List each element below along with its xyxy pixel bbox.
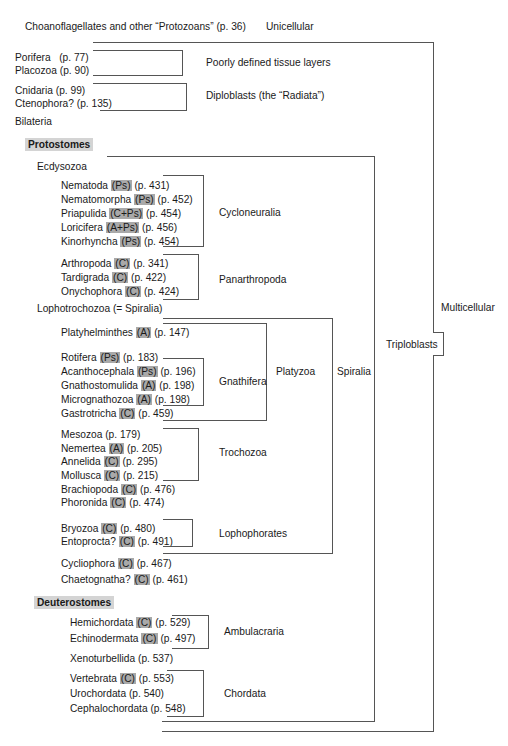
lophophorates-bracket-side bbox=[192, 519, 193, 546]
body-plan-badge: (C) bbox=[141, 633, 157, 644]
gnathifera-bracket-top bbox=[163, 358, 204, 359]
body-plan-badge: (Ps) bbox=[134, 194, 155, 205]
body-plan-badge: (Ps) bbox=[100, 352, 121, 363]
chordata-bracket-top bbox=[167, 670, 204, 671]
platyzoa-label: Platyzoa bbox=[276, 366, 315, 378]
body-plan-badge: (A+Ps) bbox=[106, 222, 139, 233]
protostomes-header: Protostomes bbox=[25, 138, 93, 151]
spiralia-vertical-line bbox=[332, 318, 333, 553]
triploblasts-label: Triploblasts bbox=[386, 339, 438, 351]
cycloneuralia-bracket-bottom bbox=[163, 246, 204, 247]
body-plan-badge: (C) bbox=[118, 558, 134, 569]
multicellular-vertical-upper bbox=[433, 42, 434, 332]
gnathifera-label: Gnathifera bbox=[219, 376, 267, 388]
poorly-defined-label: Poorly defined tissue layers bbox=[206, 57, 331, 69]
body-plan-badge: (C) bbox=[119, 536, 135, 547]
unicellular-branch-line bbox=[93, 42, 434, 43]
body-plan-badge: (A) bbox=[136, 394, 152, 405]
platyzoa-bracket-top bbox=[163, 323, 267, 324]
body-plan-badge: (Ps) bbox=[120, 236, 141, 247]
spiralia-branch-line bbox=[163, 318, 333, 319]
ambulacraria-bracket-top bbox=[172, 615, 209, 616]
body-plan-badge: (C) bbox=[101, 523, 117, 534]
protozoans-label: Choanoflagellates and other “Protozoans”… bbox=[25, 21, 246, 33]
taxon-arthropoda: Arthropoda (C) (p. 341) bbox=[61, 258, 168, 270]
cnidaria-bracket-bottom bbox=[100, 110, 187, 111]
platyzoa-bracket-bottom bbox=[163, 420, 267, 421]
multicellular-label: Multicellular bbox=[441, 302, 495, 314]
taxon-onychophora: Onychophora (C) (p. 424) bbox=[61, 286, 179, 298]
taxon-cnidaria: Cnidaria (p. 99) bbox=[15, 85, 85, 97]
taxon-loricifera: Loricifera (A+Ps) (p. 456) bbox=[61, 222, 177, 234]
taxon-priapulida: Priapulida (C+Ps) (p. 454) bbox=[61, 208, 181, 220]
platyzoa-bracket-side bbox=[266, 323, 267, 420]
taxon-nemertea: Nemertea (A) (p. 205) bbox=[61, 443, 162, 455]
body-plan-badge: (A) bbox=[141, 380, 157, 391]
bilateria-label: Bilateria bbox=[15, 116, 52, 128]
taxon-annelida: Annelida (C) (p. 295) bbox=[61, 456, 158, 468]
lophophorates-label: Lophophorates bbox=[219, 528, 287, 540]
body-plan-badge: (A) bbox=[109, 443, 125, 454]
taxon-gnathostomulida: Gnathostomulida (A) (p. 198) bbox=[61, 380, 194, 392]
taxon-phoronida: Phoronida (C) (p. 474) bbox=[61, 497, 164, 509]
taxon-platyhelminthes: Platyhelminthes (A) (p. 147) bbox=[61, 327, 189, 339]
taxon-ctenophora: Ctenophora? (p. 135) bbox=[15, 98, 112, 110]
gnathifera-bracket-bottom bbox=[163, 405, 204, 406]
diploblasts-label: Diploblasts (the “Radiata”) bbox=[206, 90, 324, 102]
trochozoa-bracket-bottom bbox=[163, 480, 199, 481]
trochozoa-bracket-side bbox=[198, 428, 199, 481]
body-plan-badge: (C) bbox=[114, 258, 130, 269]
body-plan-badge: (A) bbox=[136, 327, 152, 338]
taxon-cephalochordata: Cephalochordata (p. 548) bbox=[70, 703, 186, 715]
taxon-entoprocta: Entoprocta? (C) (p. 491) bbox=[61, 536, 173, 548]
chordata-bracket-bottom bbox=[167, 716, 204, 717]
body-plan-badge: (C) bbox=[120, 673, 136, 684]
trochozoa-bracket-top bbox=[163, 428, 199, 429]
taxon-hemichordata: Hemichordata (C) (p. 529) bbox=[70, 617, 190, 629]
body-plan-badge: (C) bbox=[112, 272, 128, 283]
taxon-nematoda: Nematoda (Ps) (p. 431) bbox=[61, 180, 170, 192]
body-plan-badge: (C) bbox=[104, 456, 120, 467]
deuterostomes-header: Deuterostomes bbox=[34, 596, 114, 609]
porifera-bracket-side bbox=[182, 50, 183, 76]
spiralia-bracket-bottom bbox=[163, 553, 333, 554]
taxon-mollusca: Mollusca (C) (p. 215) bbox=[61, 470, 158, 482]
body-plan-badge: (Ps) bbox=[137, 366, 158, 377]
cnidaria-bracket-side bbox=[186, 83, 187, 111]
multicellular-vertical-lower bbox=[433, 355, 434, 732]
chordata-bracket-side bbox=[203, 670, 204, 717]
taxon-bryozoa: Bryozoa (C) (p. 480) bbox=[61, 523, 155, 535]
taxon-xenoturbellida: Xenoturbellida (p. 537) bbox=[70, 653, 173, 665]
ambulacraria-label: Ambulacraria bbox=[224, 626, 284, 638]
lophophorates-bracket-top bbox=[163, 519, 193, 520]
cycloneuralia-bracket-top bbox=[163, 175, 204, 176]
unicellular-label: Unicellular bbox=[266, 21, 314, 33]
taxon-tardigrada: Tardigrada (C) (p. 422) bbox=[61, 272, 166, 284]
lophotrochozoa-label: Lophotrochozoa (= Spiralia) bbox=[37, 303, 162, 315]
protostomes-branch-line bbox=[107, 156, 375, 157]
lophophorates-bracket-bottom bbox=[163, 546, 193, 547]
panarthropoda-label: Panarthropoda bbox=[219, 274, 286, 286]
panarthropoda-bracket-top bbox=[163, 254, 199, 255]
bilateria-bracket-bottom bbox=[162, 721, 375, 722]
body-plan-badge: (C) bbox=[121, 484, 137, 495]
taxon-brachiopoda: Brachiopoda (C) (p. 476) bbox=[61, 484, 175, 496]
ambulacraria-bracket-bottom bbox=[172, 648, 209, 649]
cycloneuralia-bracket-side bbox=[203, 175, 204, 247]
taxon-gastrotricha: Gastrotricha (C) (p. 459) bbox=[61, 408, 173, 420]
taxon-chaetognatha: Chaetognatha? (C) (p. 461) bbox=[61, 574, 188, 586]
trochozoa-label: Trochozoa bbox=[219, 447, 267, 459]
cnidaria-bracket-top bbox=[93, 83, 187, 84]
ambulacraria-bracket-side bbox=[208, 615, 209, 649]
taxon-rotifera: Rotifera (Ps) (p. 183) bbox=[61, 352, 158, 364]
taxon-echinodermata: Echinodermata (C) (p. 497) bbox=[70, 633, 195, 645]
triploblast-notch-bottom bbox=[433, 355, 443, 356]
body-plan-badge: (C) bbox=[125, 286, 141, 297]
bilateria-vertical-line bbox=[374, 156, 375, 721]
taxon-vertebrata: Vertebrata (C) (p. 553) bbox=[70, 673, 174, 685]
porifera-bracket-top bbox=[93, 50, 183, 51]
body-plan-badge: (C) bbox=[134, 574, 150, 585]
taxon-cycliophora: Cycliophora (C) (p. 467) bbox=[61, 558, 172, 570]
taxon-nematomorpha: Nematomorpha (Ps) (p. 452) bbox=[61, 194, 193, 206]
body-plan-badge: (C) bbox=[104, 470, 120, 481]
